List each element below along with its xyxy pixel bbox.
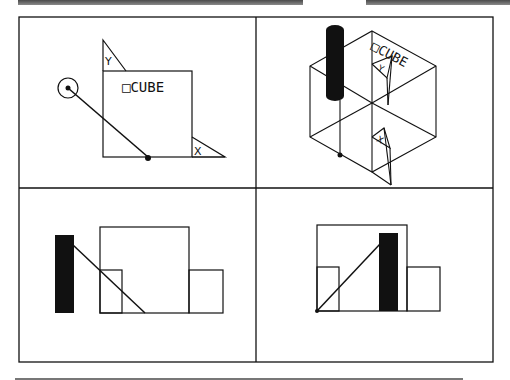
cube-label-plan: □CUBE [122,79,164,95]
side-elevation [317,225,440,311]
four-view-drawing: □CUBE Y X □CUBE Y X [0,0,510,380]
x-block-front [189,270,223,313]
viewer-bar-front [55,235,74,313]
viewer-bar-side [379,233,398,311]
viewer-cylinder [326,25,344,101]
plan-view [58,40,225,161]
y-label-plan: Y [104,55,112,68]
iso-target-point [338,153,343,158]
x-block-side [407,267,440,311]
target-point [145,155,151,161]
sight-line [68,88,148,157]
y-block-side [317,267,339,311]
front-sight-line [73,245,145,313]
x-label-plan: X [194,145,202,158]
y-block-front [100,270,122,313]
y-label-iso: Y [375,62,386,74]
front-elevation [73,227,223,313]
side-target-point [315,309,319,313]
side-sight-line [317,244,380,311]
